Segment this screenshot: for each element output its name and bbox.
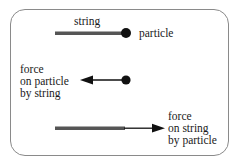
string-and-particle [55,28,131,38]
arrowhead-left-icon [80,76,93,85]
force-on-particle-label-line1: force [20,64,44,76]
force-on-string-label-line2: on string [168,123,209,135]
force-on-string-label-line3: by particle [168,135,217,147]
particle-label: particle [139,28,173,40]
particle-dot [121,28,131,38]
string-label: string [74,16,100,28]
force-on-particle-arrow [80,75,131,84]
force-on-particle-label-line2: on particle [20,76,69,88]
arrowhead-right-icon [152,124,165,133]
force-on-string-label-line1: force [168,111,192,123]
particle-dot [121,75,130,84]
force-on-string-arrow [55,124,165,133]
string-bar [55,32,124,36]
force-on-particle-label-line3: by string [20,88,61,100]
string-bar [55,127,125,131]
